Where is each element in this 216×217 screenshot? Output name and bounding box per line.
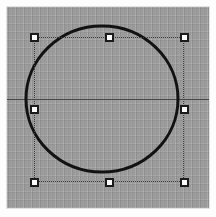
resize-handle-top-left[interactable] (30, 33, 39, 42)
resize-handle-middle-right[interactable] (180, 105, 189, 114)
resize-handle-bottom-center[interactable] (105, 178, 114, 187)
resize-handle-bottom-right[interactable] (180, 178, 189, 187)
resize-handle-bottom-left[interactable] (30, 178, 39, 187)
ellipse-shape[interactable] (26, 26, 178, 172)
drawing-canvas[interactable] (7, 7, 209, 208)
editor-canvas-root (0, 0, 216, 217)
resize-handle-top-center[interactable] (105, 33, 114, 42)
resize-handle-top-right[interactable] (180, 33, 189, 42)
resize-handle-middle-left[interactable] (30, 105, 39, 114)
